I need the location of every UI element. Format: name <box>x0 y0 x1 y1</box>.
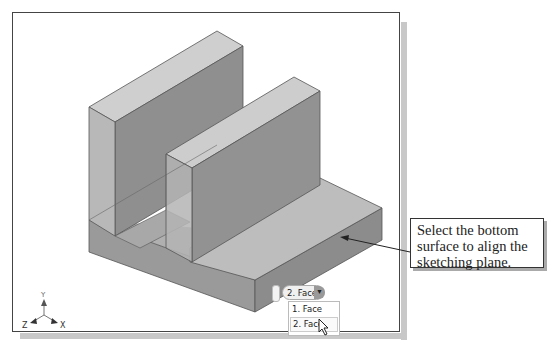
option-face-1[interactable]: 1. Face <box>290 303 338 316</box>
selection-dropdown[interactable]: 1. Face 2. Face <box>288 301 340 336</box>
dropdown-arrow-icon[interactable]: ▼ <box>314 286 325 299</box>
drag-handle[interactable] <box>272 285 280 302</box>
mouse-cursor-icon <box>318 318 332 336</box>
instruction-callout: Select the bottom surface to align the s… <box>410 218 544 268</box>
svg-text:Z: Z <box>22 321 28 330</box>
svg-text:Y: Y <box>40 291 46 299</box>
svg-text:X: X <box>60 321 66 330</box>
coordinate-triad-icon: Y Z X <box>20 290 90 350</box>
